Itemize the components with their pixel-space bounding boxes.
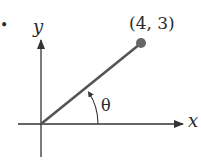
x-axis-label: x [188,112,198,130]
angle-arc [89,92,99,124]
point-marker [136,38,146,48]
point-label: (4, 3) [129,15,175,32]
bullet-mark: • [0,18,8,32]
angle-label: θ [101,98,111,114]
vector-line [41,44,140,124]
y-axis-label: y [33,18,43,36]
